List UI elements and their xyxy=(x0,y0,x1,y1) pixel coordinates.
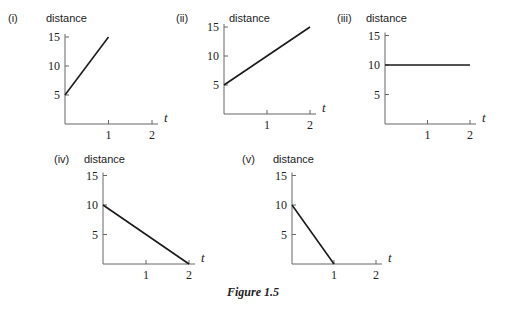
figure-canvas: (i)distance5101512t(ii)distance5101512t(… xyxy=(0,0,506,314)
x-tick-label: 2 xyxy=(307,118,313,132)
y-tick-label: 15 xyxy=(275,169,287,183)
y-tick-label: 15 xyxy=(368,29,380,43)
panel-label: (i) xyxy=(8,12,18,24)
data-line xyxy=(65,37,109,95)
x-tick-label: 1 xyxy=(331,268,337,282)
y-axis-label: distance xyxy=(46,12,87,24)
y-tick-label: 10 xyxy=(86,198,98,212)
y-tick-label: 15 xyxy=(86,169,98,183)
x-axis-label: t xyxy=(201,250,205,265)
data-line xyxy=(103,205,189,264)
y-tick-label: 10 xyxy=(207,49,219,63)
y-tick-label: 15 xyxy=(207,20,219,34)
y-axis-label: distance xyxy=(229,12,270,24)
y-tick-label: 5 xyxy=(54,88,60,102)
figure-caption: Figure 1.5 xyxy=(226,285,279,299)
x-tick-label: 1 xyxy=(143,268,149,282)
y-tick-label: 5 xyxy=(374,88,380,102)
x-tick-label: 2 xyxy=(373,268,379,282)
y-axis-label: distance xyxy=(273,153,314,165)
y-tick-label: 10 xyxy=(275,198,287,212)
x-tick-label: 2 xyxy=(149,128,155,142)
data-line xyxy=(292,205,334,264)
graph-panel: (iii)distance5101512t xyxy=(337,12,486,142)
graph-panel: (i)distance5101512t xyxy=(8,12,168,142)
x-axis-label: t xyxy=(388,250,392,265)
y-tick-label: 10 xyxy=(48,59,60,73)
panel-label: (iv) xyxy=(54,153,69,165)
x-axis-label: t xyxy=(164,110,168,125)
y-axis-label: distance xyxy=(366,12,407,24)
y-tick-label: 10 xyxy=(368,58,380,72)
x-tick-label: 1 xyxy=(106,128,112,142)
graph-panel: (iv)distance5101512t xyxy=(54,153,205,282)
graph-panel: (v)distance5101512t xyxy=(242,153,392,282)
panel-label: (ii) xyxy=(176,12,188,24)
x-axis-label: t xyxy=(482,110,486,125)
x-tick-label: 1 xyxy=(425,128,431,142)
graph-panels: (i)distance5101512t(ii)distance5101512t(… xyxy=(8,12,486,282)
panel-label: (iii) xyxy=(337,12,352,24)
x-axis-label: t xyxy=(322,100,326,115)
graph-panel: (ii)distance5101512t xyxy=(176,12,326,132)
data-line xyxy=(224,27,310,85)
y-tick-label: 5 xyxy=(92,228,98,242)
x-tick-label: 2 xyxy=(186,268,192,282)
y-tick-label: 5 xyxy=(281,228,287,242)
panel-label: (v) xyxy=(242,153,255,165)
y-tick-label: 15 xyxy=(48,30,60,44)
y-axis-label: distance xyxy=(84,153,125,165)
x-tick-label: 2 xyxy=(467,128,473,142)
x-tick-label: 1 xyxy=(264,118,270,132)
y-tick-label: 5 xyxy=(213,78,219,92)
